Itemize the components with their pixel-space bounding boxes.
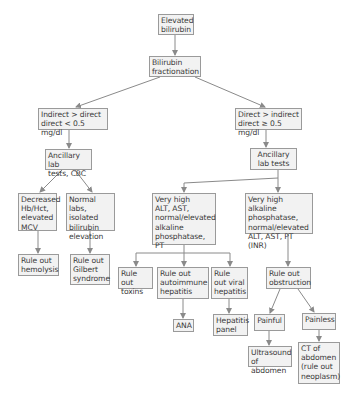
node-bilirubin-fractionation: Bilirubin fractionation [149,56,201,77]
node-hepatitis-panel: Hepatitis panel [213,314,248,336]
node-direct-gt-indirect: Direct > indirect direct ≥ 0.5 mg/dl [235,108,302,130]
node-rule-out-gilbert: Rule out Gilbert syndrome [70,254,110,285]
node-rule-out-obstruction: Rule out obstruction [266,267,311,289]
node-ancillary-lab-tests: Ancillary lab tests [250,148,297,170]
node-ana: ANA [173,319,194,332]
node-very-high-alt-ast: Very high ALT, AST, normal/elevated alka… [152,193,216,245]
node-ct-abdomen: CT of abdomen (rule out neoplasm) [298,342,340,384]
node-ultrasound-abdomen: Ultrasound of abdomen [248,346,292,367]
edge-fractionation-direct [195,77,265,107]
node-decreased-hb-hct: Decreased Hb/Hct, elevated MCV [18,193,57,231]
edge-ancillary-very-high-alt [184,178,278,192]
node-rule-out-hemolysis: Rule out hemolysis [18,254,59,276]
node-rule-out-autoimmune-hepatitis: Rule out autoimmune hepatitis [157,267,209,299]
edge-obstruction-painful [270,289,280,313]
flowchart-canvas: Elevated bilirubin Bilirubin fractionati… [0,0,356,404]
node-rule-out-toxins: Rule out toxins [118,267,153,289]
node-ancillary-lab-tests-cbc: Ancillary lab tests, CBC [45,149,92,170]
node-normal-labs: Normal labs, isolated bilirubin elevatio… [66,193,115,231]
node-very-high-alkaline-phosphatase: Very high alkaline phosphatase, normal/e… [245,193,313,234]
node-painful: Painful [254,314,285,331]
edge-obstruction-painless [298,289,314,312]
edge-fractionation-indirect [76,77,160,107]
node-elevated-bilirubin: Elevated bilirubin [158,14,194,35]
node-indirect-gt-direct: Indirect > direct direct < 0.5 mg/dl [38,108,108,130]
node-painless: Painless [302,313,336,330]
node-rule-out-viral-hepatitis: Rule out viral hepatitis [211,267,248,299]
